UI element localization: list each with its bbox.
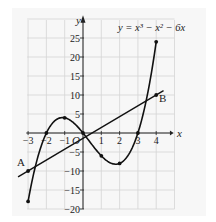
svg-text:−5: −5: [69, 147, 80, 158]
point-a-label: A: [17, 156, 25, 168]
svg-text:10: 10: [70, 90, 80, 101]
line-ab: [18, 91, 163, 177]
y-axis-label: y: [75, 14, 81, 26]
svg-text:4: 4: [154, 135, 159, 146]
cubic-curve: [28, 42, 156, 202]
svg-text:−15: −15: [64, 185, 80, 196]
svg-text:5: 5: [75, 109, 80, 120]
cubic-graph: −3−2−11234252015105−5−10−15−20 y = x³ − …: [0, 0, 216, 222]
svg-text:2: 2: [117, 135, 122, 146]
tick-labels: −3−2−11234252015105−5−10−15−20: [23, 33, 159, 215]
data-points: [26, 40, 158, 203]
svg-text:1: 1: [99, 135, 104, 146]
svg-text:−1: −1: [59, 135, 70, 146]
svg-text:15: 15: [70, 71, 80, 82]
svg-text:20: 20: [70, 52, 80, 63]
svg-text:−10: −10: [64, 166, 80, 177]
axes: [26, 15, 173, 209]
x-axis-label: x: [176, 127, 182, 139]
equation-label: y = x³ − x² − 6x: [117, 22, 186, 33]
svg-text:25: 25: [70, 33, 80, 44]
point-b-label: B: [159, 92, 166, 104]
origin-label: O: [72, 134, 80, 146]
grid: [27, 19, 174, 209]
svg-text:−3: −3: [23, 135, 34, 146]
svg-text:−20: −20: [64, 204, 80, 215]
